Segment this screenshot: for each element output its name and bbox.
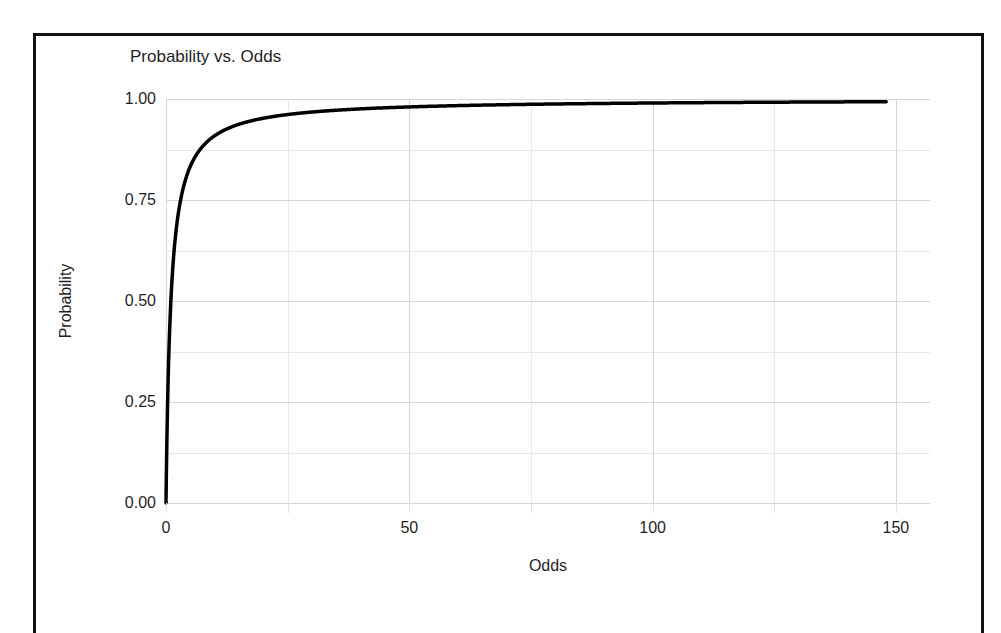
x-tick-label: 100 <box>639 519 666 536</box>
x-tick-label: 150 <box>883 519 910 536</box>
x-tick-label: 0 <box>162 519 171 536</box>
x-tick-stub <box>288 503 289 513</box>
probability-curve <box>166 99 930 503</box>
x-tick-stub <box>166 503 167 513</box>
y-tick-label: 1.00 <box>86 91 156 107</box>
x-tick-stub <box>774 503 775 513</box>
x-tick-label: 50 <box>400 519 418 536</box>
x-axis-title: Odds <box>166 556 930 576</box>
y-tick-label: 0.00 <box>86 495 156 511</box>
x-tick-stub <box>896 503 897 513</box>
y-tick-label: 0.75 <box>86 192 156 208</box>
x-tick-stub <box>531 503 532 513</box>
plot-area <box>166 99 930 503</box>
y-axis-title: Probability <box>57 264 75 339</box>
y-tick-label: 0.50 <box>86 293 156 309</box>
chart-title: Probability vs. Odds <box>130 46 281 68</box>
x-tick-stub <box>409 503 410 513</box>
gridline <box>166 503 930 504</box>
x-tick-stub <box>653 503 654 513</box>
y-tick-label: 0.25 <box>86 394 156 410</box>
